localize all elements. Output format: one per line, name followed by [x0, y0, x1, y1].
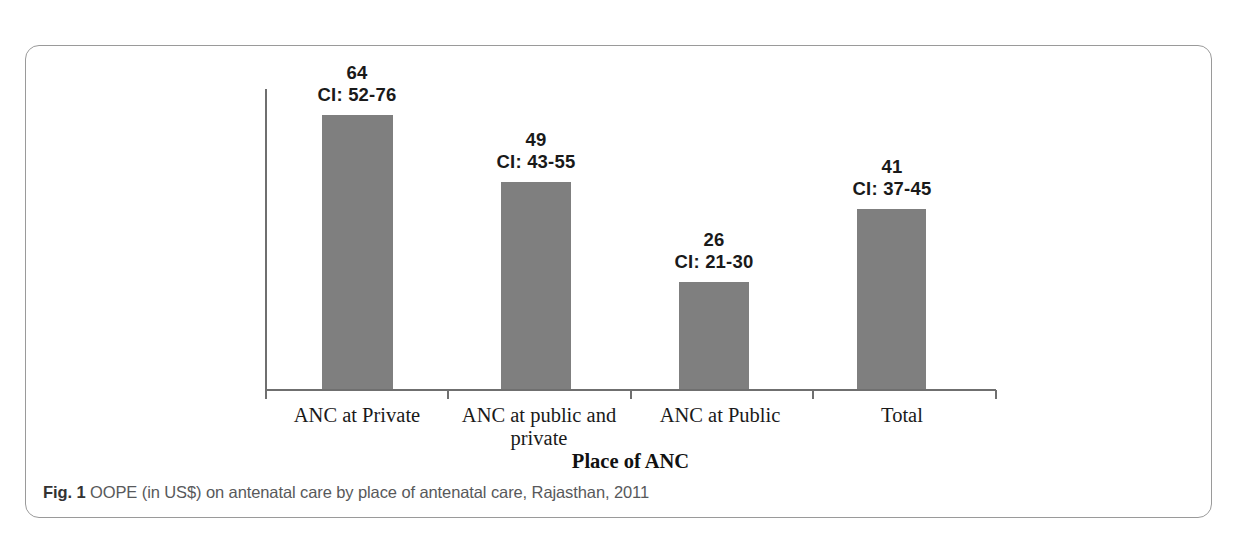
bar-anc-at-public: [679, 282, 749, 389]
x-axis-label-anc-at-private: ANC at Private: [267, 404, 447, 427]
bar-value-total: 41: [812, 156, 972, 178]
x-axis-tick: [630, 390, 632, 399]
bar-value-label-total: 41 CI: 37-45: [812, 156, 972, 200]
bar-value-anc-at-public-and-private: 49: [456, 129, 616, 151]
x-axis-tick: [812, 390, 814, 399]
bar-value-label-anc-at-public: 26 CI: 21-30: [634, 229, 794, 273]
bar-total: [857, 209, 926, 389]
figure-caption-text: OOPE (in US$) on antenatal care by place…: [86, 483, 650, 501]
bar-anc-at-private: [322, 115, 393, 389]
figure-caption: Fig. 1 OOPE (in US$) on antenatal care b…: [43, 483, 1193, 502]
x-axis-label-line: private: [511, 427, 568, 449]
bar-ci-anc-at-private: CI: 52-76: [277, 84, 437, 106]
x-axis-label-line: ANC at Private: [294, 404, 420, 426]
figure-container: 64 CI: 52-76 49 CI: 43-55 26 CI: 21-30 4…: [25, 45, 1212, 518]
x-axis-label-line: ANC at Public: [660, 404, 781, 426]
chart-plot-area: 64 CI: 52-76 49 CI: 43-55 26 CI: 21-30 4…: [26, 46, 1213, 519]
bar-anc-at-public-and-private: [501, 182, 571, 389]
x-axis-title: Place of ANC: [265, 450, 996, 473]
x-axis-label-line: Total: [881, 404, 923, 426]
y-axis-line: [265, 89, 267, 390]
x-axis-tick: [265, 390, 267, 399]
bar-value-anc-at-public: 26: [634, 229, 794, 251]
figure-caption-label: Fig. 1: [43, 483, 86, 501]
x-axis-tick: [995, 390, 997, 399]
bar-value-label-anc-at-private: 64 CI: 52-76: [277, 62, 437, 106]
bar-ci-anc-at-public: CI: 21-30: [634, 251, 794, 273]
x-axis-tick: [447, 390, 449, 399]
bar-value-label-anc-at-public-and-private: 49 CI: 43-55: [456, 129, 616, 173]
x-axis-label-anc-at-public: ANC at Public: [630, 404, 810, 427]
bar-value-anc-at-private: 64: [277, 62, 437, 84]
x-axis-label-line: ANC at public and: [462, 404, 616, 426]
x-axis-label-total: Total: [812, 404, 992, 427]
x-axis-label-anc-at-public-and-private: ANC at public and private: [446, 404, 632, 450]
bar-ci-anc-at-public-and-private: CI: 43-55: [456, 151, 616, 173]
bar-ci-total: CI: 37-45: [812, 178, 972, 200]
